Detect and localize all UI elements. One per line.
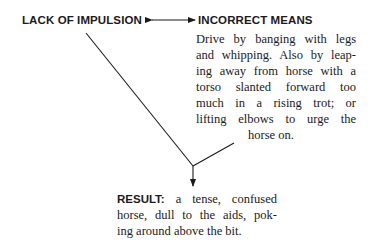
cause-to-result-line	[86, 33, 193, 166]
connector-lines	[0, 0, 372, 246]
means-to-result-line	[193, 143, 234, 166]
